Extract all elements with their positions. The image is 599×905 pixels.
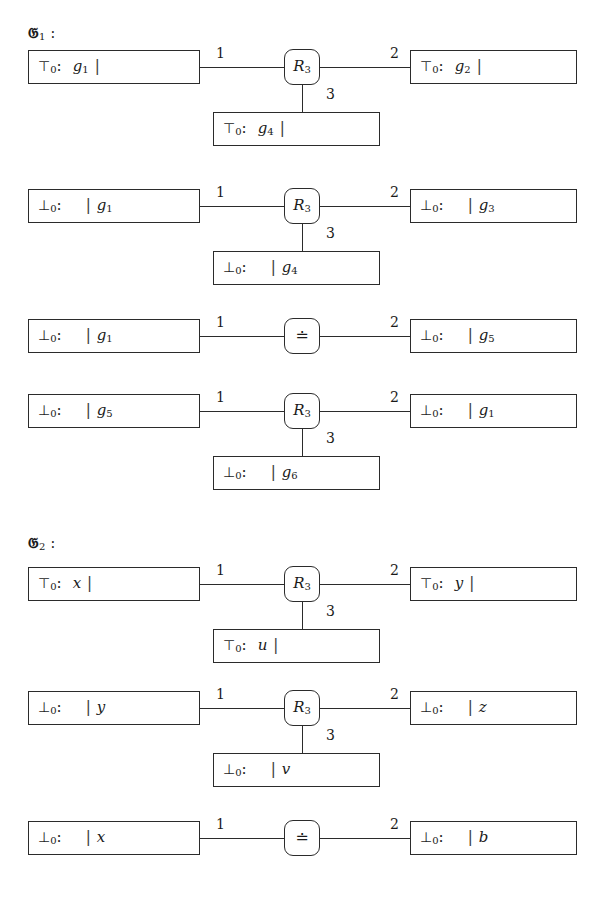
equality-node[interactable]: ≐ xyxy=(284,820,320,856)
edge-bottom xyxy=(302,726,303,753)
literal-box-left[interactable]: ⊥0:|g1 xyxy=(28,319,200,353)
edge-bottom xyxy=(302,429,303,456)
node-label: R3 xyxy=(293,576,311,592)
group-caption: 𝔊1: xyxy=(28,26,55,42)
literal-text: ⊥0:|g1 xyxy=(29,328,113,344)
literal-text: ⊤0:y| xyxy=(411,576,474,592)
polarity-symbol: ⊥ xyxy=(38,402,50,418)
literal-box-bottom[interactable]: ⊥0:|v xyxy=(213,753,380,787)
literal-box-right[interactable]: ⊥0:|b xyxy=(410,821,577,855)
literal-text: ⊥0:|g3 xyxy=(411,198,495,214)
variable: b xyxy=(479,828,489,846)
edge-label-1: 1 xyxy=(216,563,225,577)
literal-box-left[interactable]: ⊤0:g1| xyxy=(28,50,200,84)
literal-box-left[interactable]: ⊥0:|y xyxy=(28,691,200,725)
literal-box-right[interactable]: ⊥0:|g1 xyxy=(410,394,577,428)
literal-box-right[interactable]: ⊥0:|z xyxy=(410,691,577,725)
variable: u xyxy=(258,636,268,654)
colon: : xyxy=(57,574,62,592)
variable: g1 xyxy=(479,401,495,419)
variable-subscript: 1 xyxy=(106,333,112,344)
variable: g6 xyxy=(282,463,298,481)
separator-bar: | xyxy=(469,574,474,592)
group-index: 2 xyxy=(39,541,45,552)
edge-label-2: 2 xyxy=(390,46,399,60)
relation-node[interactable]: R3 xyxy=(284,690,320,726)
polarity-symbol: ⊤ xyxy=(420,575,432,591)
variable: x xyxy=(97,828,105,846)
variable: v xyxy=(282,760,290,778)
colon: : xyxy=(57,828,62,846)
literal-box-left[interactable]: ⊥0:|x xyxy=(28,821,200,855)
variable: z xyxy=(479,698,487,716)
literal-box-bottom[interactable]: ⊥0:|g6 xyxy=(213,456,380,490)
colon: : xyxy=(57,698,62,716)
variable-subscript: 5 xyxy=(488,333,494,344)
edge-right xyxy=(320,336,410,337)
equality-node[interactable]: ≐ xyxy=(284,318,320,354)
separator-bar: | xyxy=(86,698,91,716)
diagram-canvas: 𝔊1:𝔊2:⊤0:g1|⊤0:g2|12⊤0:g4|3R3⊥0:|g1⊥0:|g… xyxy=(0,0,599,905)
literal-text: ⊤0:g4| xyxy=(214,121,285,137)
separator-bar: | xyxy=(468,326,473,344)
literal-box-left[interactable]: ⊤0:x| xyxy=(28,567,200,601)
relation-node[interactable]: R3 xyxy=(284,566,320,602)
variable-subscript: 1 xyxy=(82,64,88,75)
variable: g4 xyxy=(282,258,298,276)
variable: g4 xyxy=(258,119,274,137)
variable-subscript: 4 xyxy=(291,265,297,276)
colon: : xyxy=(242,258,247,276)
node-label: R3 xyxy=(293,59,311,75)
literal-box-left[interactable]: ⊥0:|g1 xyxy=(28,189,200,223)
node-label: R3 xyxy=(293,700,311,716)
literal-box-right[interactable]: ⊤0:g2| xyxy=(410,50,577,84)
colon: : xyxy=(242,636,247,654)
relation-node[interactable]: R3 xyxy=(284,49,320,85)
literal-text: ⊥0:|x xyxy=(29,830,105,846)
edge-label-3: 3 xyxy=(326,431,335,445)
separator-bar: | xyxy=(95,57,100,75)
literal-box-right[interactable]: ⊥0:|g3 xyxy=(410,189,577,223)
literal-box-right[interactable]: ⊤0:y| xyxy=(410,567,577,601)
relation-node[interactable]: R3 xyxy=(284,393,320,429)
literal-text: ⊤0:g1| xyxy=(29,59,100,75)
polarity-symbol: ⊥ xyxy=(420,327,432,343)
colon: : xyxy=(242,760,247,778)
edge-bottom xyxy=(302,85,303,112)
edge-label-1: 1 xyxy=(216,315,225,329)
colon: : xyxy=(57,401,62,419)
variable-subscript: 1 xyxy=(106,203,112,214)
edge-right xyxy=(320,411,410,412)
edge-right xyxy=(320,708,410,709)
polarity-symbol: ⊥ xyxy=(38,327,50,343)
caption-colon: : xyxy=(50,25,55,41)
edge-label-1: 1 xyxy=(216,390,225,404)
edge-label-3: 3 xyxy=(326,226,335,240)
polarity-symbol: ⊥ xyxy=(420,699,432,715)
variable-subscript: 1 xyxy=(488,408,494,419)
variable-subscript: 4 xyxy=(267,126,273,137)
relation-node[interactable]: R3 xyxy=(284,188,320,224)
colon: : xyxy=(439,196,444,214)
literal-box-bottom[interactable]: ⊤0:u| xyxy=(213,629,380,663)
literal-text: ⊤0:u| xyxy=(214,638,278,654)
colon: : xyxy=(439,828,444,846)
literal-box-bottom[interactable]: ⊥0:|g4 xyxy=(213,251,380,285)
node-subscript: 3 xyxy=(304,408,310,419)
literal-box-right[interactable]: ⊥0:|g5 xyxy=(410,319,577,353)
literal-box-bottom[interactable]: ⊤0:g4| xyxy=(213,112,380,146)
literal-text: ⊥0:|g5 xyxy=(411,328,495,344)
edge-label-3: 3 xyxy=(326,728,335,742)
caption-colon: : xyxy=(50,535,55,551)
separator-bar: | xyxy=(468,401,473,419)
literal-text: ⊤0:g2| xyxy=(411,59,482,75)
literal-box-left[interactable]: ⊥0:|g5 xyxy=(28,394,200,428)
separator-bar: | xyxy=(477,57,482,75)
separator-bar: | xyxy=(86,326,91,344)
edge-label-1: 1 xyxy=(216,687,225,701)
variable: g3 xyxy=(479,196,495,214)
variable: g1 xyxy=(97,326,113,344)
edge-label-2: 2 xyxy=(390,563,399,577)
variable: g2 xyxy=(455,57,471,75)
edge-label-1: 1 xyxy=(216,46,225,60)
